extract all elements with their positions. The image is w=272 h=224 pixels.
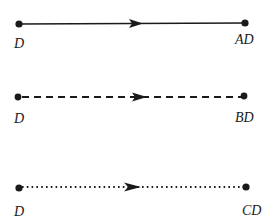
- node-cd: [242, 183, 249, 190]
- node-d: [15, 94, 22, 101]
- label-source-1: D: [14, 37, 24, 51]
- arrowhead-icon: [124, 183, 141, 192]
- diagram-canvas: [0, 0, 272, 224]
- node-d: [15, 184, 22, 191]
- node-d: [15, 20, 22, 27]
- label-target-bd: BD: [235, 111, 254, 125]
- label-source-3: D: [14, 205, 24, 219]
- label-target-cd: CD: [242, 204, 261, 218]
- label-target-ad: AD: [235, 33, 254, 47]
- arrow-d-to-ad: [15, 19, 248, 28]
- label-source-2: D: [14, 112, 24, 126]
- node-ad: [241, 19, 248, 26]
- node-bd: [241, 93, 248, 100]
- arrow-d-to-cd: [15, 183, 249, 192]
- arrow-d-to-bd: [15, 93, 248, 102]
